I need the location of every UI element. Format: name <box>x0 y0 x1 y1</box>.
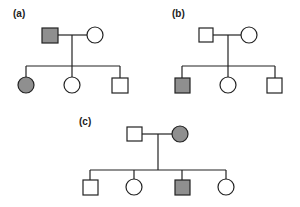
pedigree-c-mother-affected-female <box>172 126 188 142</box>
pedigree-a-child-3-unaffected-male <box>112 78 128 93</box>
pedigree-a-father-affected-male <box>42 28 58 43</box>
pedigree-c-child-2-unaffected-female <box>126 179 142 195</box>
pedigree-a-child-2-unaffected-female <box>64 77 80 93</box>
pedigree-b-father-unaffected-male <box>199 28 213 42</box>
pedigree-b-mother-unaffected-female <box>241 27 257 43</box>
pedigree-a-mother-unaffected-female <box>87 27 103 43</box>
pedigree-b-child-3-unaffected-male <box>267 78 282 93</box>
pedigree-b-child-2-unaffected-female <box>220 77 236 93</box>
pedigree-diagram <box>0 0 300 207</box>
pedigree-c-child-4-unaffected-female <box>218 179 234 195</box>
pedigree-c-father-unaffected-male <box>127 127 142 141</box>
pedigree-c-lines <box>90 134 226 180</box>
pedigree-c-child-3-affected-male <box>175 180 190 195</box>
pedigree-c-child-1-unaffected-male <box>83 180 98 195</box>
pedigree-b-lines <box>182 35 275 78</box>
pedigree-a-lines <box>26 35 120 78</box>
pedigree-b-child-1-affected-male <box>175 78 190 93</box>
pedigree-a-child-1-affected-female <box>18 77 34 93</box>
